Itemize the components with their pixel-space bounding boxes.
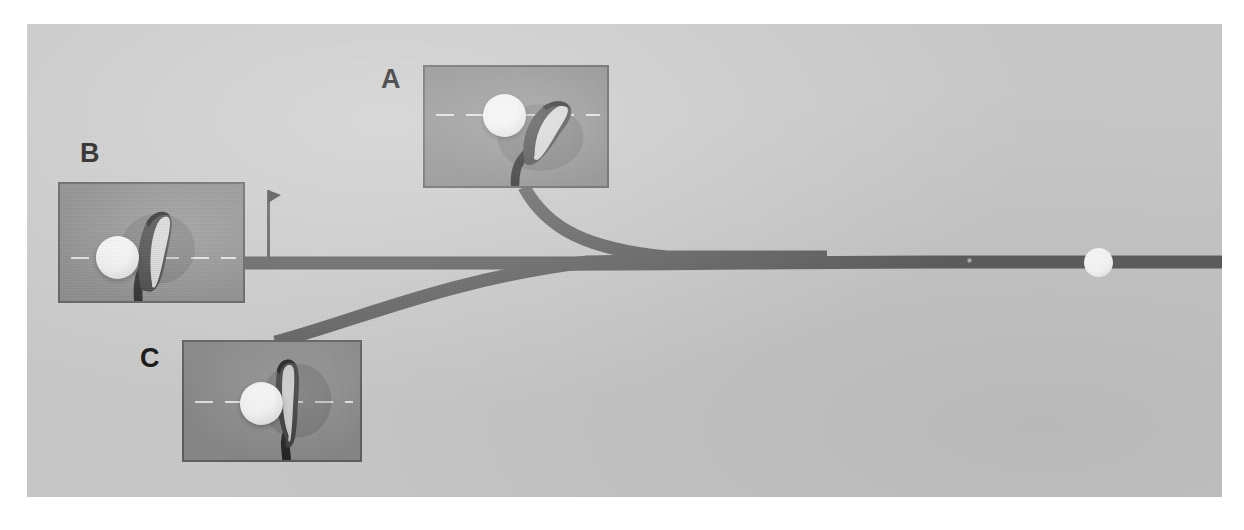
panel-label-b: B [80, 140, 100, 167]
common-ball-path [507, 262, 1222, 264]
inset-panel-b[interactable] [58, 182, 245, 303]
inset-panel-a[interactable] [423, 65, 609, 188]
panel-label-c: C [140, 345, 160, 372]
golf-ball-inset-c [240, 382, 283, 425]
photo-plate [27, 24, 1222, 497]
flagstick-flag-icon [268, 190, 281, 203]
panel-label-a: A [381, 66, 401, 93]
golf-ball-inset-b [96, 236, 139, 279]
club-illustration-b [60, 184, 243, 302]
inset-panel-c[interactable] [182, 340, 362, 462]
figure-root: A B C [0, 0, 1244, 530]
swing-path-a [524, 187, 827, 257]
golf-ball-inset-a [483, 94, 526, 137]
ball-position-mark [967, 258, 972, 263]
golf-ball-at-rest [1084, 248, 1113, 277]
